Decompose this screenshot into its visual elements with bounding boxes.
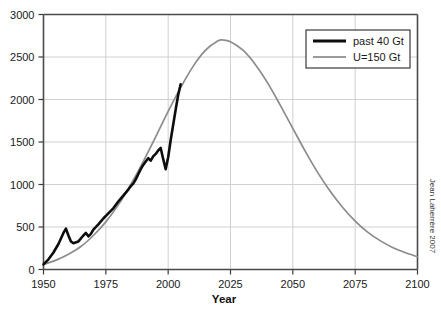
chart-legend[interactable]: past 40 Gt U=150 Gt <box>306 30 410 68</box>
x-tick-label-2100: 2100 <box>405 278 429 290</box>
y-tick-label-2000: 2000 <box>10 94 34 106</box>
x-tick-label-2025: 2025 <box>218 278 242 290</box>
x-tick-label-1975: 1975 <box>94 278 118 290</box>
x-tick-label-2075: 2075 <box>343 278 367 290</box>
y-tick-label-1500: 1500 <box>10 136 34 148</box>
legend-label-u-150-gt: U=150 Gt <box>353 51 400 63</box>
x-tick-label-2000: 2000 <box>156 278 180 290</box>
y-tick-label-500: 500 <box>16 221 34 233</box>
chart-container: 050010001500200025003000 195019752000202… <box>0 0 441 314</box>
y-tick-label-2500: 2500 <box>10 51 34 63</box>
x-axis-title: Year <box>212 293 237 305</box>
y-tick-label-0: 0 <box>28 264 34 276</box>
y-tick-label-3000: 3000 <box>10 9 34 21</box>
credit-annotation: Jean Laherrère 2007 <box>428 179 437 254</box>
legend-label-past-40-gt: past 40 Gt <box>353 35 404 47</box>
line-chart: 050010001500200025003000 195019752000202… <box>0 0 441 314</box>
y-tick-label-1000: 1000 <box>10 179 34 191</box>
x-tick-label-1950: 1950 <box>31 278 55 290</box>
x-tick-label-2050: 2050 <box>281 278 305 290</box>
